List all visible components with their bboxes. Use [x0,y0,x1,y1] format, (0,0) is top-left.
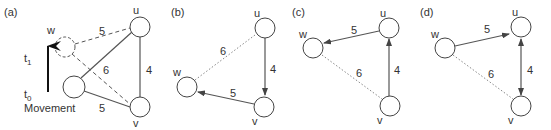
edge-weight-v-w: 5 [230,87,236,99]
node-label-w: w [430,28,439,40]
diagram: (a) w u v 5 6 5 4 t1 t0 Movement (b) [0,0,551,130]
movement-label: Movement [24,102,75,114]
node-u [130,17,150,37]
panel-a: (a) w u v 5 6 5 4 t1 t0 Movement [4,4,152,129]
edge-weight-w-v: 6 [103,64,109,76]
node-v [130,97,150,117]
edge-w-u [455,34,509,46]
node-w-t0 [63,76,85,98]
node-label-w: w [172,66,181,78]
node-label-u: u [512,6,518,18]
node-label-w: w [46,24,55,36]
edge-v-w [198,92,254,104]
edge-weight-u-w: 5 [351,24,357,36]
node-u [511,17,531,37]
panel-b: (b) u v w 6 4 5 [171,6,276,127]
panel-label: (c) [292,6,305,18]
node-u [255,18,275,38]
node-u [379,18,399,38]
node-label-v: v [377,114,383,126]
panel-c: (c) u v w 5 6 4 [292,6,400,126]
edge-u-w [195,35,255,80]
panel-label: (a) [4,6,17,18]
edge-weight-w-u: 5 [484,23,490,35]
node-label-v: v [252,115,258,127]
node-w-t1 [55,37,75,57]
edge-weight-w0-v: 5 [99,102,105,114]
time-label-t0: t0 [24,88,32,103]
node-label-v: v [508,114,514,126]
node-v [254,97,274,117]
panel-label: (b) [171,6,184,18]
edge-weight-v-u: 4 [394,64,400,76]
edge-w0-v [84,91,130,107]
edge-weight-v-w: 6 [356,67,362,79]
node-w [177,77,197,97]
edge-weight-w-v: 6 [488,68,494,80]
time-label-t1: t1 [24,52,32,67]
node-label-u: u [380,7,386,19]
edge-weight-u-v: 4 [527,64,533,76]
edge-weight-u-w: 6 [220,45,226,57]
node-label-u: u [254,7,260,19]
node-label-w: w [298,28,307,40]
edge-v-w [322,55,382,99]
panel-label: (d) [420,6,433,18]
node-label-u: u [133,4,139,16]
node-w [435,38,455,58]
panel-d: (d) u v w 5 6 4 [420,6,533,126]
edge-weight-u-v: 4 [146,64,152,76]
node-w [303,38,323,58]
edge-w-v [453,55,513,99]
node-v [511,96,531,116]
edge-weight-u-v: 4 [270,63,276,75]
node-label-v: v [133,117,139,129]
node-v [380,96,400,116]
edge-weight-w-u: 5 [99,25,105,37]
